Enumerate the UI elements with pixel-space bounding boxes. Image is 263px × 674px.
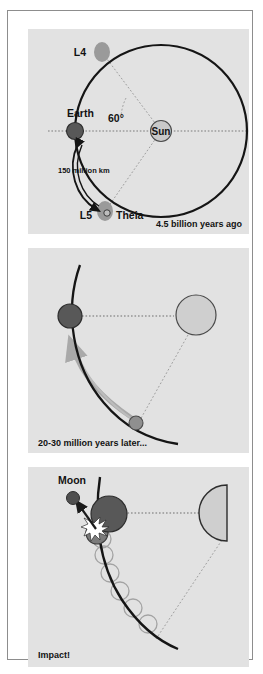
l4-blob [94, 42, 110, 62]
theia-body [129, 416, 143, 430]
panel-1-caption: 4.5 billion years ago [156, 219, 243, 229]
panel-3-diagram: Moon Impact! [28, 467, 249, 667]
moon-body [67, 492, 80, 505]
distance-arrow-curved [73, 144, 96, 209]
sun-half-body [199, 485, 227, 541]
panel-impact: Moon Impact! [28, 467, 249, 667]
figure-frame: Sun L4 L5 Ea [7, 10, 253, 660]
panel-2-caption: 20-30 million years later... [38, 438, 147, 448]
earth-body [58, 304, 82, 328]
earth-body [67, 123, 84, 140]
panel-2-diagram: 20-30 million years later... [28, 248, 249, 453]
sun-theia-dashed-line [140, 335, 188, 420]
radius-line-to-l5 [106, 131, 161, 210]
l5-label: L5 [80, 209, 92, 221]
distance-label: 150 million km [58, 166, 110, 175]
l4-label: L4 [74, 46, 86, 58]
panel-20-30-million-years-later: 20-30 million years later... [28, 248, 249, 453]
figure-root: Sun L4 L5 Ea [0, 0, 263, 674]
sun-label: Sun [152, 126, 171, 137]
theia-marker [104, 210, 110, 216]
theia-motion-arrow-thin [77, 352, 135, 421]
theia-motion-arrow [73, 349, 132, 418]
theia-label: Theia [116, 209, 144, 221]
earth-orbit-arc [72, 265, 178, 444]
panel-3-caption: Impact! [38, 650, 70, 660]
panel-4-5-billion-years-ago: Sun L4 L5 Ea [28, 29, 249, 234]
panel-1-diagram: Sun L4 L5 Ea [28, 29, 249, 234]
moon-label: Moon [58, 474, 86, 486]
sun-orbit-dashed-line [156, 537, 224, 639]
earth-label: Earth [67, 107, 94, 119]
sun-body [176, 295, 216, 335]
angle-label-60: 60° [108, 112, 124, 124]
